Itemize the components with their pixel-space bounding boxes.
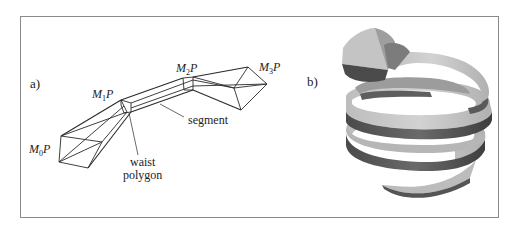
node-label-m3: M3P [258, 60, 281, 76]
node-label-m0: M0P [28, 142, 51, 158]
waist-leader [129, 113, 138, 155]
segment-annotation: segment [188, 113, 229, 127]
node-label-m2: M2P [175, 61, 198, 77]
waist-annotation-line2: polygon [123, 168, 162, 182]
figure-canvas: a) M0P M1P M2P M3P segment waist polygon… [0, 0, 515, 225]
node-label-m1: M1P [91, 87, 114, 103]
panel-a-wireframe [59, 67, 267, 168]
segment-leader [160, 104, 184, 117]
panel-a-label: a) [30, 76, 40, 91]
panel-b-label: b) [307, 74, 318, 89]
helix-shape [342, 28, 492, 198]
waist-annotation-line1: waist [130, 155, 156, 169]
m1-waist-polygon [121, 100, 131, 113]
